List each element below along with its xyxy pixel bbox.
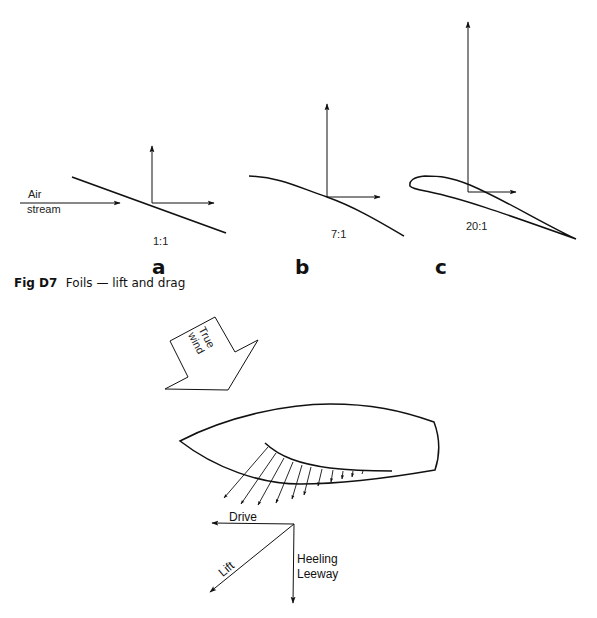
drive-label: Drive xyxy=(229,510,257,524)
lift-label: Lift xyxy=(216,558,238,579)
heeling-label: Heeling xyxy=(297,552,338,566)
foil-c-ratio: 20:1 xyxy=(466,220,487,232)
figure-caption: Fig D7 Foils — lift and drag xyxy=(14,273,185,290)
airstream-label-line2: stream xyxy=(27,203,61,215)
sail-curve xyxy=(265,443,392,471)
pressure-arrow xyxy=(258,458,284,505)
pressure-arrows xyxy=(224,447,363,505)
pressure-arrow xyxy=(292,465,302,499)
foil-a-flat-plate xyxy=(72,177,226,233)
lift-arrow xyxy=(210,524,294,592)
figure-number: Fig D7 xyxy=(14,276,57,290)
foil-a-group: Air stream 1:1 a xyxy=(20,146,226,279)
foil-b-label: b xyxy=(295,255,309,279)
pressure-arrow xyxy=(342,471,343,479)
true-wind-arrow: True wind xyxy=(165,317,258,390)
foils-diagram: Air stream 1:1 a 7:1 b 20:1 c Fig D7 Foi… xyxy=(0,0,597,618)
pressure-arrow xyxy=(304,467,311,495)
foil-c-label: c xyxy=(435,255,447,279)
foil-c-group: 20:1 c xyxy=(410,22,576,279)
pressure-arrow xyxy=(224,447,268,498)
heeling-leeway-arrow xyxy=(293,524,294,603)
pressure-arrow xyxy=(331,470,333,482)
true-wind-arrow-shape xyxy=(165,317,258,390)
airstream-label-line1: Air xyxy=(28,188,42,200)
foil-b-ratio: 7:1 xyxy=(331,228,346,240)
pressure-arrow xyxy=(241,453,276,504)
hull-plan xyxy=(180,404,439,505)
foil-a-ratio: 1:1 xyxy=(153,235,168,247)
pressure-arrow xyxy=(352,471,353,477)
foil-b-group: 7:1 b xyxy=(249,104,404,279)
leeway-label: Leeway xyxy=(297,567,338,581)
foil-c-aerofoil xyxy=(410,176,576,239)
pressure-arrow xyxy=(362,471,363,474)
force-diagram: Drive Lift Heeling Leeway xyxy=(210,510,338,603)
figure-caption-text: Foils — lift and drag xyxy=(66,276,185,290)
